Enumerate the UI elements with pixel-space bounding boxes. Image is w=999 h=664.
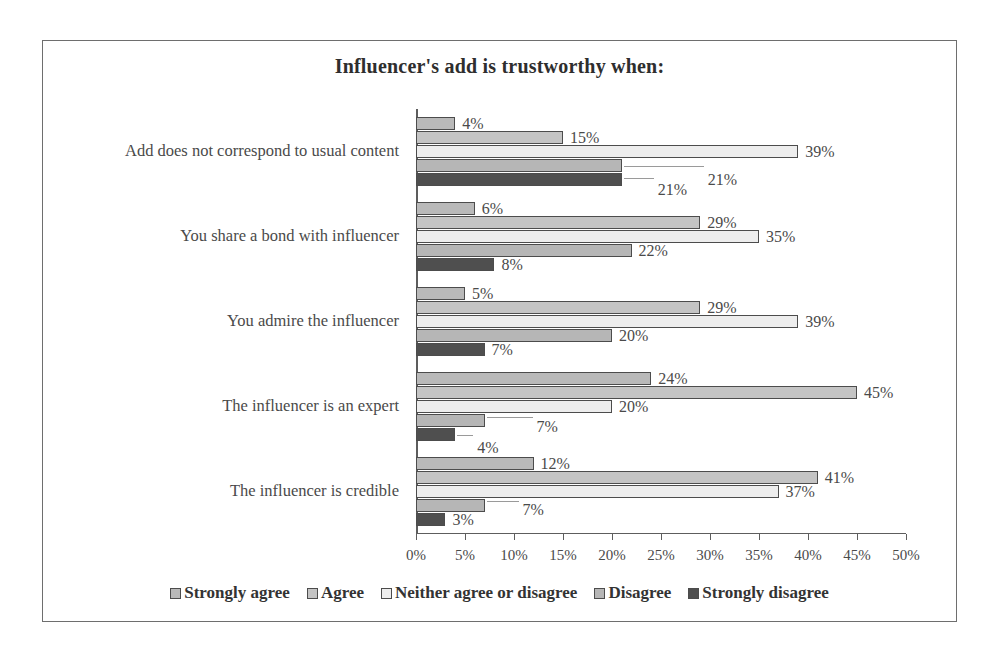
x-axis-tick-label: 15% bbox=[549, 547, 577, 564]
x-axis-tick bbox=[661, 534, 662, 540]
x-axis-tick-label: 40% bbox=[794, 547, 822, 564]
bar-row: 24% bbox=[416, 372, 906, 385]
x-axis-tick-label: 45% bbox=[843, 547, 871, 564]
x-axis-tick bbox=[808, 534, 809, 540]
bar-row: 37% bbox=[416, 485, 906, 498]
bar-row: 8% bbox=[416, 258, 906, 271]
x-axis-tick-label: 30% bbox=[696, 547, 724, 564]
bar[interactable] bbox=[416, 471, 818, 484]
legend-label: Neither agree or disagree bbox=[395, 583, 577, 603]
bar-row: 3% bbox=[416, 513, 906, 526]
bar-row: 22% bbox=[416, 244, 906, 257]
bar[interactable] bbox=[416, 244, 632, 257]
bar-row: 5% bbox=[416, 287, 906, 300]
label-leader-line bbox=[624, 178, 654, 179]
bar[interactable] bbox=[416, 117, 455, 130]
bar-value-label: 3% bbox=[452, 511, 473, 529]
bar-value-label: 8% bbox=[501, 256, 522, 274]
chart-legend: Strongly agreeAgreeNeither agree or disa… bbox=[43, 583, 956, 603]
bar[interactable] bbox=[416, 315, 798, 328]
chart-frame: Influencer's add is trustworthy when: Ad… bbox=[42, 40, 957, 622]
x-axis-tick-label: 25% bbox=[647, 547, 675, 564]
category-label: The influencer is an expert bbox=[222, 396, 408, 416]
bar[interactable] bbox=[416, 173, 622, 186]
bar[interactable] bbox=[416, 159, 622, 172]
bar-row: 4% bbox=[416, 117, 906, 130]
bar-group: 24%45%20%7%4% bbox=[416, 372, 906, 441]
legend-label: Strongly disagree bbox=[702, 583, 828, 603]
legend-swatch-icon bbox=[594, 588, 605, 599]
bar-row: 7% bbox=[416, 499, 906, 512]
x-axis-tick-label: 35% bbox=[745, 547, 773, 564]
bar[interactable] bbox=[416, 343, 485, 356]
bar[interactable] bbox=[416, 131, 563, 144]
bar[interactable] bbox=[416, 216, 700, 229]
bar-row: 4% bbox=[416, 428, 906, 441]
bar-row: 39% bbox=[416, 315, 906, 328]
label-leader-line bbox=[457, 435, 473, 436]
bar-row: 7% bbox=[416, 414, 906, 427]
bar[interactable] bbox=[416, 202, 475, 215]
bar[interactable] bbox=[416, 258, 494, 271]
bar-row: 20% bbox=[416, 400, 906, 413]
legend-label: Agree bbox=[321, 583, 364, 603]
legend-label: Strongly agree bbox=[184, 583, 290, 603]
x-axis-tick-label: 5% bbox=[455, 547, 475, 564]
bar-value-label: 21% bbox=[658, 181, 687, 199]
label-leader-line bbox=[624, 166, 704, 167]
plot-area: 4%15%39%21%21%6%29%35%22%8%5%29%39%20%7%… bbox=[416, 109, 906, 534]
x-axis-tick bbox=[563, 534, 564, 540]
bar-group: 5%29%39%20%7% bbox=[416, 287, 906, 356]
legend-swatch-icon bbox=[170, 588, 181, 599]
bar-row: 45% bbox=[416, 386, 906, 399]
x-axis-tick-label: 50% bbox=[892, 547, 920, 564]
category-label: You admire the influencer bbox=[227, 311, 408, 331]
bar[interactable] bbox=[416, 301, 700, 314]
bar-value-label: 4% bbox=[477, 439, 498, 457]
category-label: Add does not correspond to usual content bbox=[125, 141, 408, 161]
legend-item-strongly-disagree[interactable]: Strongly disagree bbox=[688, 583, 828, 603]
bar-group: 4%15%39%21%21% bbox=[416, 117, 906, 186]
bar-value-label: 7% bbox=[492, 341, 513, 359]
x-axis-tick-label: 20% bbox=[598, 547, 626, 564]
legend-swatch-icon bbox=[381, 588, 392, 599]
bar-group: 6%29%35%22%8% bbox=[416, 202, 906, 271]
x-axis-tick bbox=[465, 534, 466, 540]
bar[interactable] bbox=[416, 414, 485, 427]
bar-row: 21% bbox=[416, 173, 906, 186]
bar[interactable] bbox=[416, 457, 534, 470]
legend-swatch-icon bbox=[688, 588, 699, 599]
bar[interactable] bbox=[416, 287, 465, 300]
bar-row: 39% bbox=[416, 145, 906, 158]
bar-row: 41% bbox=[416, 471, 906, 484]
bar[interactable] bbox=[416, 499, 485, 512]
legend-item-disagree[interactable]: Disagree bbox=[594, 583, 671, 603]
bar[interactable] bbox=[416, 145, 798, 158]
bar[interactable] bbox=[416, 485, 779, 498]
x-axis-tick bbox=[416, 534, 417, 540]
bar[interactable] bbox=[416, 230, 759, 243]
category-label: The influencer is credible bbox=[230, 481, 408, 501]
bar-row: 6% bbox=[416, 202, 906, 215]
x-axis-tick bbox=[612, 534, 613, 540]
legend-label: Disagree bbox=[608, 583, 671, 603]
category-axis-labels: Add does not correspond to usual content… bbox=[43, 109, 408, 534]
bar[interactable] bbox=[416, 372, 651, 385]
bar-row: 21% bbox=[416, 159, 906, 172]
bar-row: 29% bbox=[416, 216, 906, 229]
legend-item-agree[interactable]: Agree bbox=[307, 583, 364, 603]
legend-item-strongly-agree[interactable]: Strongly agree bbox=[170, 583, 290, 603]
chart-title: Influencer's add is trustworthy when: bbox=[43, 55, 956, 78]
bar[interactable] bbox=[416, 400, 612, 413]
x-axis-tick bbox=[857, 534, 858, 540]
bar[interactable] bbox=[416, 329, 612, 342]
bar-group: 12%41%37%7%3% bbox=[416, 457, 906, 526]
bar[interactable] bbox=[416, 513, 445, 526]
x-axis-tick-label: 0% bbox=[406, 547, 426, 564]
label-leader-line bbox=[487, 501, 519, 502]
bar-row: 7% bbox=[416, 343, 906, 356]
bar[interactable] bbox=[416, 428, 455, 441]
x-axis-tick-label: 10% bbox=[500, 547, 528, 564]
label-leader-line bbox=[487, 417, 533, 418]
legend-item-neither-agree-or-disagree[interactable]: Neither agree or disagree bbox=[381, 583, 577, 603]
